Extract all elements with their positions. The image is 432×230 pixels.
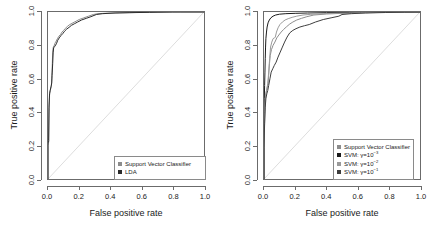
x-axis-line-left [47,186,205,187]
roc-figure: 0.00.20.40.60.81.0 0.00.20.40.60.81.0 Fa… [0,0,432,230]
x-tick-mark [173,186,174,190]
y-tick-label: 0.2 [243,141,252,151]
x-tick-mark [263,186,264,190]
y-tick-label: 0.2 [27,141,36,151]
x-tick-label: 0.4 [105,192,115,201]
legend-swatch-icon [337,170,341,174]
legend-swatch-icon [337,162,341,166]
panel-right: 0.00.20.40.60.81.0 0.00.20.40.60.81.0 Fa… [216,0,432,230]
x-tick-mark [358,186,359,190]
y-tick-mark [253,180,257,181]
y-tick-label: 0.6 [243,73,252,83]
y-axis-title-right: True positive rate [225,60,235,129]
x-axis-title-right: False positive rate [305,208,378,218]
x-tick-mark [79,186,80,190]
x-tick-label: 0.8 [384,192,394,201]
y-tick-label: 0.6 [27,73,36,83]
y-tick-mark [37,11,41,12]
x-axis-line-right [263,186,421,187]
y-tick-label: 1.0 [27,6,36,16]
chance-diagonal-line [48,12,204,179]
y-tick-mark [253,45,257,46]
x-tick-mark [421,186,422,190]
y-axis-title-left: True positive rate [9,60,19,129]
x-tick-label: 1.0 [416,192,426,201]
y-tick-mark [253,112,257,113]
legend-swatch-icon [118,170,122,174]
y-tick-label: 0.4 [243,107,252,117]
x-tick-label: 0.0 [258,192,268,201]
y-tick-mark [253,11,257,12]
y-tick-label: 0.0 [243,175,252,185]
y-axis-line-right [257,11,258,180]
legend-swatch-icon [337,153,341,157]
x-tick-mark [110,186,111,190]
y-tick-mark [37,146,41,147]
y-tick-label: 0.0 [27,175,36,185]
legend-right: Support Vector ClassifierSVM: γ=10−3SVM:… [333,139,414,180]
x-tick-label: 0.6 [137,192,147,201]
roc-curves-left [48,12,204,179]
legend-swatch-icon [118,162,122,166]
legend-swatch-icon [337,145,341,149]
y-tick-mark [37,79,41,80]
legend-entry: SVM: γ=10−1 [337,168,410,176]
x-tick-label: 0.4 [321,192,331,201]
plot-area-left [47,11,205,180]
y-tick-mark [253,146,257,147]
y-tick-label: 1.0 [243,6,252,16]
y-tick-label: 0.4 [27,107,36,117]
x-tick-label: 0.2 [289,192,299,201]
legend-entry: Support Vector Classifier [118,160,202,168]
legend-left: Support Vector ClassifierLDA [114,156,206,180]
y-tick-label: 0.8 [243,40,252,50]
legend-label: LDA [125,168,137,176]
x-tick-label: 0.2 [73,192,83,201]
x-tick-label: 0.0 [42,192,52,201]
x-tick-label: 0.8 [168,192,178,201]
y-axis-line-left [41,11,42,180]
x-tick-mark [142,186,143,190]
legend-entry: LDA [118,168,202,176]
x-tick-label: 1.0 [200,192,210,201]
y-tick-mark [37,112,41,113]
legend-label: Support Vector Classifier [125,160,191,168]
panel-left: 0.00.20.40.60.81.0 0.00.20.40.60.81.0 Fa… [0,0,216,230]
y-tick-mark [253,79,257,80]
x-axis-title-left: False positive rate [89,208,162,218]
legend-label: SVM: γ=10−1 [344,168,378,176]
x-tick-mark [295,186,296,190]
y-tick-mark [37,180,41,181]
x-tick-label: 0.6 [353,192,363,201]
y-tick-label: 0.8 [27,40,36,50]
x-tick-mark [326,186,327,190]
x-tick-mark [47,186,48,190]
x-tick-mark [205,186,206,190]
x-tick-mark [389,186,390,190]
y-tick-mark [37,45,41,46]
